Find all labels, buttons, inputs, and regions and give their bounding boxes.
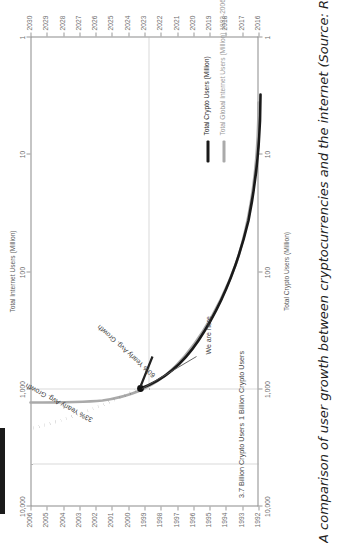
internet-year-tick: [259, 507, 260, 511]
y-left-tick-label: 10,000: [264, 496, 271, 517]
internet-year-label: 2002: [91, 513, 98, 543]
crypto-year-tick: [226, 33, 227, 37]
value-tick: [259, 272, 263, 273]
annotation-we-are-here: We are here: [205, 316, 212, 354]
chart-figure: Total Internet Users (Million) Total Cry…: [1, 0, 301, 543]
crypto-year-tick: [242, 33, 243, 37]
legend-swatch-internet: [223, 141, 226, 163]
internet-year-label: 1992: [254, 513, 261, 543]
internet-year-tick: [226, 507, 227, 511]
internet-year-label: 1995: [205, 513, 212, 543]
figure-caption: A comparison of user growth between cryp…: [301, 0, 341, 543]
crypto-year-tick: [79, 33, 80, 37]
internet-year-tick: [210, 507, 211, 511]
crypto-year-label: 2026: [91, 1, 98, 31]
internet-year-label: 2000: [123, 513, 130, 543]
internet-year-label: 1999: [140, 513, 147, 543]
crypto-year-tick: [161, 33, 162, 37]
value-tick: [259, 389, 263, 390]
internet-year-label: 1998: [156, 513, 163, 543]
y-left-tick-label: 1: [264, 36, 271, 40]
crypto-year-label: 2028: [58, 1, 65, 31]
internet-year-tick: [112, 507, 113, 511]
crypto-year-label: 2018: [221, 1, 228, 31]
y-right-tick-label: 100: [19, 267, 26, 278]
internet-year-tick: [96, 507, 97, 511]
internet-year-label: 2004: [58, 513, 65, 543]
crypto-year-tick: [128, 33, 129, 37]
caption-text: A comparison of user growth between cryp…: [316, 0, 331, 543]
crypto-year-label: 2024: [123, 1, 130, 31]
y-right-tick-label: 10,000: [19, 496, 26, 517]
crypto-year-tick: [31, 33, 32, 37]
internet-year-tick: [193, 507, 194, 511]
crypto-year-tick: [145, 33, 146, 37]
y-right-tick-label: 10: [19, 151, 26, 159]
crypto-year-tick: [193, 33, 194, 37]
internet-year-label: 2001: [107, 513, 114, 543]
internet-year-tick: [31, 507, 32, 511]
internet-year-label: 1993: [237, 513, 244, 543]
refline-label-3-7-billion: 3.7 Billion Crypto Users: [237, 423, 246, 498]
legend-label-crypto: Total Crypto Users (Million): [203, 56, 210, 135]
y-right-tick-label: 1: [19, 36, 26, 40]
crypto-year-label: 2030: [26, 1, 33, 31]
crypto-year-label: 2025: [107, 1, 114, 31]
crypto-year-label: 2016: [254, 1, 261, 31]
crypto-year-label: 2022: [156, 1, 163, 31]
internet-year-label: 2003: [74, 513, 81, 543]
internet-year-tick: [242, 507, 243, 511]
crypto-year-tick: [112, 33, 113, 37]
internet-year-tick: [79, 507, 80, 511]
internet-year-tick: [161, 507, 162, 511]
crypto-year-tick: [96, 33, 97, 37]
crypto-year-label: 2027: [74, 1, 81, 31]
internet-year-label: 2006: [26, 513, 33, 543]
crypto-year-label: 2019: [205, 1, 212, 31]
crypto-year-label: 2023: [140, 1, 147, 31]
crypto-year-label: 2029: [42, 1, 49, 31]
internet-year-tick: [63, 507, 64, 511]
legend-swatch-crypto: [207, 141, 210, 163]
crypto-year-tick: [47, 33, 48, 37]
internet-year-tick: [128, 507, 129, 511]
crypto-year-tick: [259, 33, 260, 37]
crypto-year-tick: [63, 33, 64, 37]
internet-year-label: 1996: [188, 513, 195, 543]
crypto-year-tick: [210, 33, 211, 37]
value-tick: [259, 37, 263, 38]
y-left-axis-title: Total Crypto Users (Million): [283, 37, 290, 507]
y-left-tick-label: 10: [264, 151, 271, 159]
internet-year-tick: [177, 507, 178, 511]
y-right-tick-label: 1,000: [19, 381, 26, 398]
crypto-year-tick: [177, 33, 178, 37]
internet-year-label: 1997: [172, 513, 179, 543]
internet-year-tick: [47, 507, 48, 511]
internet-year-tick: [145, 507, 146, 511]
internet-year-label: 2005: [42, 513, 49, 543]
refline-label-1-billion: 1 Billion Crypto Users: [237, 351, 246, 420]
y-left-tick-label: 1,000: [264, 381, 271, 398]
y-left-tick-label: 100: [264, 267, 271, 278]
crypto-year-label: 2021: [172, 1, 179, 31]
series-crypto-users: [141, 95, 261, 389]
crypto-year-label: 2020: [188, 1, 195, 31]
y-right-axis-title: Total Internet Users (Million): [9, 37, 16, 507]
crypto-year-label: 2017: [237, 1, 244, 31]
internet-year-label: 1994: [221, 513, 228, 543]
